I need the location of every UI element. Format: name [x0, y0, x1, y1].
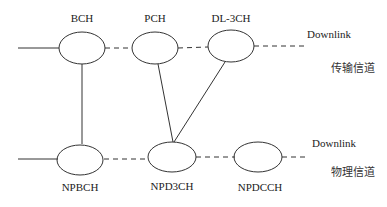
transport-link-pch-dl3ch: [178, 47, 208, 48]
transport-layer-label: 传输信道: [331, 59, 375, 75]
npd3ch-label: NPD3CH: [151, 180, 194, 192]
npbch-label: NPBCH: [62, 181, 99, 193]
physical-layer-label: 物理信道: [331, 163, 375, 179]
npbch-node: [57, 145, 103, 175]
pch-node: [132, 32, 178, 64]
physical-downlink-label: Downlink: [312, 137, 356, 149]
npd3ch-node: [148, 142, 196, 172]
pch-label: PCH: [144, 12, 165, 24]
npdcch-node: [234, 142, 282, 172]
npdcch-label: NPDCCH: [238, 181, 283, 193]
dl3ch-node: [208, 30, 254, 62]
mapping-dl3ch-npd3ch: [174, 62, 225, 142]
bch-label: BCH: [71, 12, 94, 24]
dl3ch-label: DL-3CH: [211, 12, 250, 24]
mapping-pch-npd3ch: [158, 64, 173, 142]
transport-downlink-label: Downlink: [307, 28, 351, 40]
bch-node: [59, 32, 105, 64]
